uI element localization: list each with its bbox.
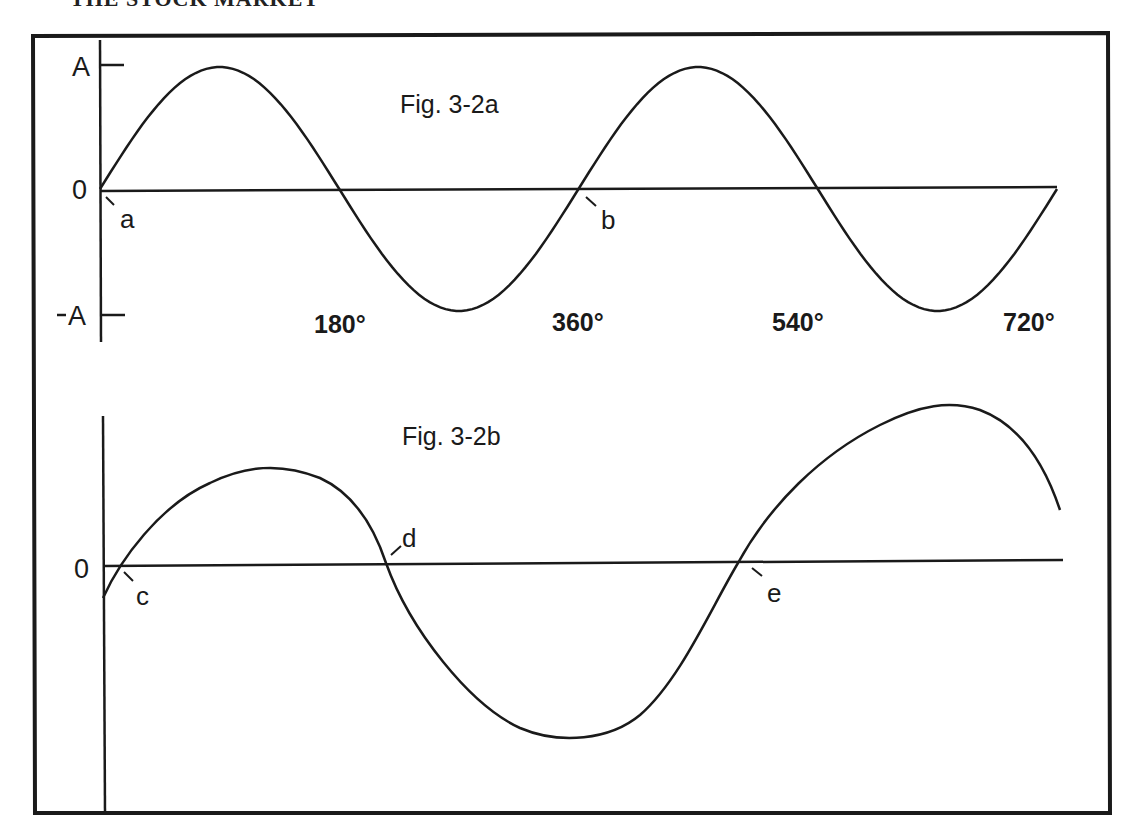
- point-label-e: e: [767, 578, 781, 608]
- sine-wave-diagram: A 0 -A A Fig. 3-2a a b 180°360°540°720° …: [0, 0, 1139, 834]
- point-label-a: a: [120, 204, 135, 234]
- figure-a: A 0 -A A Fig. 3-2a a b 180°360°540°720°: [57, 40, 1057, 342]
- y-label-a-top: A: [72, 52, 90, 82]
- point-label-d: d: [402, 523, 416, 553]
- marker-d: [391, 546, 401, 555]
- point-label-b: b: [601, 205, 615, 235]
- marker-a: [106, 197, 114, 205]
- marker-c: [124, 572, 133, 581]
- x-label-540-deg: 540°: [772, 308, 824, 336]
- figure-b-title: Fig. 3-2b: [402, 422, 501, 450]
- x-label-720-deg: 720°: [1003, 308, 1055, 336]
- x-label-180-deg: 180°: [314, 310, 366, 338]
- sine-curve-a: [100, 67, 1057, 311]
- y-label-b-zero: 0: [74, 554, 89, 584]
- x-axis-b: [103, 560, 1063, 566]
- figure-frame: [33, 33, 1110, 813]
- x-label-360-deg: 360°: [552, 308, 604, 336]
- marker-e: [752, 568, 762, 576]
- figure-a-title: Fig. 3-2a: [400, 90, 499, 118]
- figure-b: 0 Fig. 3-2b c d e: [74, 405, 1063, 813]
- y-axis-b: [103, 416, 105, 813]
- y-label-a-bottom-letter: A: [68, 301, 86, 331]
- y-label-a-zero: 0: [72, 175, 87, 205]
- marker-b: [586, 197, 596, 206]
- irregular-curve-b: [103, 405, 1060, 738]
- point-label-c: c: [136, 581, 149, 611]
